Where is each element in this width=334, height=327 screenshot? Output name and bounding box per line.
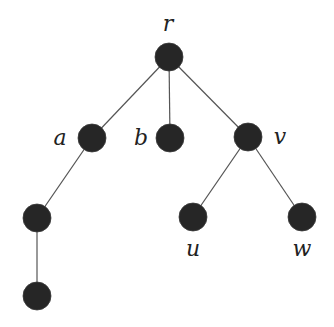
node-v <box>234 123 262 151</box>
node-a-child <box>23 204 51 232</box>
label-u: u <box>186 236 200 261</box>
node-a <box>78 124 106 152</box>
tree-svg: r a b v u w <box>0 0 334 327</box>
tree-diagram: r a b v u w <box>0 0 334 327</box>
label-r: r <box>163 11 175 36</box>
label-b: b <box>134 125 148 150</box>
node-r <box>155 43 183 71</box>
label-w: w <box>293 236 312 261</box>
label-a: a <box>53 125 66 150</box>
edge-a-a1 <box>37 138 92 218</box>
node-a-grandchild <box>23 282 51 310</box>
label-v: v <box>274 124 287 149</box>
edges <box>37 57 302 296</box>
node-w <box>288 203 316 231</box>
edge-v-w <box>248 137 302 217</box>
edge-r-v <box>169 57 248 137</box>
edge-v-u <box>193 137 248 217</box>
node-b <box>156 124 184 152</box>
node-u <box>179 203 207 231</box>
edge-r-a <box>92 57 169 138</box>
